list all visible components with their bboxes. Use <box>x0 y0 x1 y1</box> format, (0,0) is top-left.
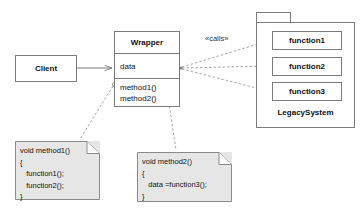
function3-box[interactable]: function3 <box>272 82 342 101</box>
wrapper-class-name: Wrapper <box>115 32 179 54</box>
wrapper-class-box[interactable]: Wrapper data method1() method2() <box>114 31 180 107</box>
uml-diagram-canvas: Wrapper (solid association) --> function… <box>0 0 361 217</box>
wrapper-attribute-data: data <box>115 54 179 79</box>
function1-box[interactable]: function1 <box>272 31 342 50</box>
calls-stereotype-label: «calls» <box>205 34 228 43</box>
note-method1-line-2: { <box>20 157 95 169</box>
note-method2[interactable]: void method2() { data =function3(); } <box>137 152 232 202</box>
note-method2-line-1: void method2() <box>142 156 227 168</box>
client-class-label: Client <box>35 64 57 73</box>
wrapper-operation-method2[interactable]: method2() <box>120 93 179 104</box>
function2-box[interactable]: function2 <box>272 57 342 76</box>
note-leader-method1 <box>80 86 113 139</box>
legacysystem-package-label: LegacySystem <box>256 108 355 117</box>
note-method1[interactable]: void method1() { function1(); function2(… <box>15 141 100 200</box>
client-class-box[interactable]: Client <box>15 55 77 82</box>
note-method1-line-5: } <box>20 191 95 203</box>
note-method1-line-3: function1(); <box>20 168 95 180</box>
note-method1-text: void method1() { function1(); function2(… <box>15 141 100 203</box>
wrapper-operations-compartment: method1() method2() <box>115 79 179 104</box>
note-method2-line-2: { <box>142 168 227 180</box>
wrapper-operation-method1[interactable]: method1() <box>120 82 179 93</box>
note-method2-line-3: data =function3(); <box>142 179 227 191</box>
note-method2-text: void method2() { data =function3(); } <box>137 152 232 202</box>
note-method2-line-4: } <box>142 191 227 203</box>
note-method1-line-4: function2(); <box>20 180 95 192</box>
note-method1-line-1: void method1() <box>20 145 95 157</box>
